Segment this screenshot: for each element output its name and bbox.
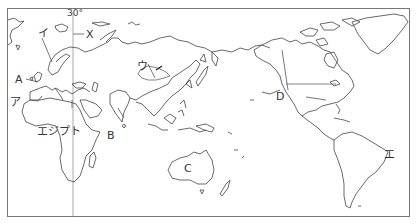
label-a-kana: ア <box>10 97 21 108</box>
new-guinea <box>196 124 214 132</box>
label-d: D <box>276 91 284 102</box>
label-e: エ <box>384 149 395 160</box>
india <box>110 90 130 122</box>
d-pointer-horizontal <box>306 97 326 100</box>
africa <box>22 98 100 182</box>
north-america <box>254 38 354 116</box>
new-zealand <box>220 180 230 196</box>
label-egypt: エジプト <box>37 126 81 137</box>
scandinavia <box>48 54 70 75</box>
i-pointer-line <box>42 38 52 62</box>
british-isles <box>34 72 42 82</box>
svalbard <box>55 24 68 32</box>
hudson-bay <box>324 52 338 68</box>
europe-south <box>30 86 90 94</box>
d-pointer-vertical <box>282 50 288 90</box>
label-u: ウ <box>137 61 148 72</box>
black-sea <box>72 82 86 88</box>
central-america <box>302 116 334 140</box>
eurasia-north-coast <box>50 36 270 62</box>
meridian-30-label: 30° <box>67 9 83 18</box>
label-b: B <box>107 130 115 141</box>
label-c: C <box>184 163 192 174</box>
caspian-sea <box>92 82 98 92</box>
label-a: A <box>15 74 23 85</box>
arabia <box>80 100 102 118</box>
world-map <box>0 0 418 224</box>
u-pointer-line <box>148 64 155 78</box>
greenland-left <box>8 18 24 45</box>
greenland-right <box>352 14 408 54</box>
south-america <box>334 132 388 208</box>
label-i: イ <box>38 28 49 39</box>
label-x: X <box>86 29 94 40</box>
madagascar <box>89 152 96 168</box>
b-pointer-line <box>118 108 124 118</box>
